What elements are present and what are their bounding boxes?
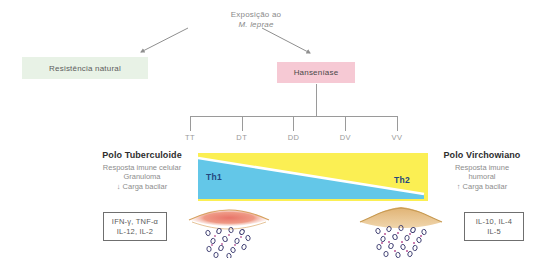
spectrum-tick-dv: DV <box>332 133 358 142</box>
pole-tuberculoid-title: Polo Tuberculoide <box>84 151 200 161</box>
cytokine-box-th1: IFN-γ, TNF-α IL-12, IL-2 <box>103 212 167 241</box>
pole-tuberculoid-line-3: ↓ Carga bacilar <box>84 182 200 192</box>
th2-label: Th2 <box>394 175 410 185</box>
pole-tuberculoid-line-2: Granuloma <box>84 172 200 182</box>
pole-tuberculoid-line-1: Resposta imune celular <box>84 163 200 173</box>
th1-label: Th1 <box>206 172 222 182</box>
lesion-tuberculoid-illustration <box>186 200 272 258</box>
cytokine-th2-line-2: IL-5 <box>487 227 501 237</box>
pole-virchowian-line-2: humoral <box>432 172 532 182</box>
pole-virchowian-line-1: Resposta imune <box>432 163 532 173</box>
cytokine-box-th2: IL-10, IL-4 IL-5 <box>464 212 524 241</box>
lesion-bacilli <box>211 234 242 246</box>
spectrum-tick-labels: TT DT DD DV VV <box>190 133 397 145</box>
cytokine-th1-line-2: IL-12, IL-2 <box>117 227 153 237</box>
lesion-infiltrate-cells <box>205 227 250 258</box>
spectrum-tick-dd: DD <box>281 133 307 142</box>
lesion-infiltrate-cells <box>375 225 426 258</box>
spectrum-tick-vv: VV <box>384 133 410 142</box>
pole-virchowian: Polo Virchowiano Resposta imune humoral … <box>432 151 532 191</box>
cytokine-th1-line-1: IFN-γ, TNF-α <box>112 217 158 227</box>
leprosy-spectrum-diagram: Exposição ao M. leprae Resistência natur… <box>0 0 536 267</box>
pole-virchowian-line-3: ↑ Carga bacilar <box>432 182 532 192</box>
pole-tuberculoid: Polo Tuberculoide Resposta imune celular… <box>84 151 200 191</box>
cytokine-th2-line-1: IL-10, IL-4 <box>476 217 512 227</box>
lesion-virchowian-illustration <box>358 200 444 258</box>
pole-virchowian-title: Polo Virchowiano <box>432 151 532 161</box>
lesion-plaque <box>190 209 268 226</box>
spectrum-tick-tt: TT <box>177 133 203 142</box>
th1-th2-gradient-band: Th1 Th2 <box>198 153 428 201</box>
spectrum-tick-dt: DT <box>229 133 255 142</box>
lesion-nodule <box>360 207 442 228</box>
